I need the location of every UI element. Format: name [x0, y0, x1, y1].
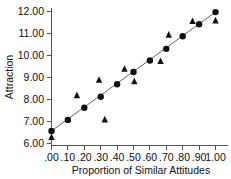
data-point-triangle [121, 65, 127, 72]
x-tick-label: .50 [126, 151, 141, 163]
x-tick-label: .20 [77, 151, 92, 163]
y-tick-label: 7.00 [24, 115, 45, 127]
data-point-circle [98, 94, 104, 100]
data-point-triangle [212, 17, 218, 24]
y-axis-tick-labels: 6.007.008.009.0010.0011.0012.00 [18, 5, 44, 149]
x-tick-label: 1.00 [205, 151, 226, 163]
x-tick-label: .70 [159, 151, 174, 163]
y-tick-label: 9.00 [24, 71, 45, 83]
data-point-circle [65, 117, 71, 123]
x-tick-label: .40 [110, 151, 125, 163]
data-point-triangle [166, 31, 172, 38]
data-point-circle [147, 57, 153, 63]
data-point-circle [180, 33, 186, 39]
data-point-triangle [74, 92, 80, 99]
x-tick-label: .80 [175, 151, 190, 163]
x-tick-label: .60 [143, 151, 158, 163]
y-tick-label: 11.00 [19, 27, 45, 39]
plot-canvas: 6.007.008.009.0010.0011.0012.00 .00.10.2… [0, 0, 231, 179]
x-axis-tick-marks [52, 146, 216, 151]
data-point-triangle [96, 76, 102, 83]
x-tick-label: .10 [61, 151, 76, 163]
y-tick-label: 12.00 [18, 5, 44, 17]
x-axis-tick-labels: .00.10.20.30.40.50.60.70.80.901.00 [44, 151, 226, 163]
data-point-circle [81, 105, 87, 111]
x-tick-label: .30 [93, 151, 108, 163]
data-point-circle [130, 69, 136, 75]
data-point-triangle [102, 116, 108, 123]
y-tick-label: 6.00 [24, 137, 45, 149]
x-axis-title: Proportion of Similar Attitudes [72, 164, 210, 176]
x-tick-label: .00 [44, 151, 59, 163]
data-point-circle [48, 128, 54, 134]
data-point-triangle [189, 17, 195, 24]
scatter-plot-figure: 6.007.008.009.0010.0011.0012.00 .00.10.2… [0, 0, 231, 179]
y-tick-label: 8.00 [24, 93, 45, 105]
data-point-circle [114, 81, 120, 87]
data-point-circle [196, 21, 202, 27]
y-axis-tick-marks [47, 11, 52, 143]
data-point-triangle [131, 78, 137, 85]
y-axis-title: Attraction [3, 55, 15, 100]
y-tick-label: 10.00 [18, 49, 44, 61]
data-point-triangle [48, 133, 54, 140]
data-point-circle [163, 46, 169, 52]
data-point-triangle [157, 58, 163, 65]
observed-data-markers [48, 17, 218, 140]
data-point-circle [212, 9, 218, 15]
